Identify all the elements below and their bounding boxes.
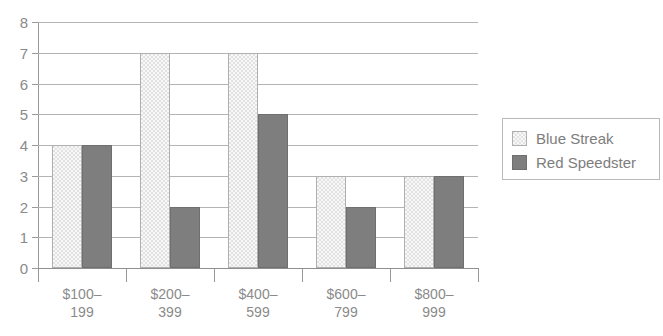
y-axis-label: 8 (20, 15, 28, 30)
gridline (38, 84, 478, 85)
y-axis-tick (32, 145, 38, 146)
x-axis-tick (214, 269, 215, 282)
x-axis-tick (390, 269, 391, 282)
bar (346, 207, 376, 269)
y-axis-label: 4 (20, 138, 28, 153)
y-axis-tick (32, 114, 38, 115)
bar (170, 207, 200, 269)
y-axis-label: 6 (20, 76, 28, 91)
x-axis-label: $400– 599 (214, 286, 302, 321)
y-axis-label: 3 (20, 168, 28, 183)
legend-swatch-icon-blue-streak (512, 131, 527, 146)
y-axis-tick (32, 53, 38, 54)
y-axis-label: 1 (20, 230, 28, 245)
bar (316, 176, 346, 268)
y-axis-label: 7 (20, 45, 28, 60)
bar (52, 145, 82, 268)
x-axis-tick (38, 269, 39, 282)
bar (404, 176, 434, 268)
legend-item-blue-streak: Blue Streak (512, 126, 659, 150)
plot-area: 012345678 (38, 22, 478, 268)
legend-label-blue-streak: Blue Streak (536, 131, 614, 146)
x-axis-label: $200– 399 (126, 286, 214, 321)
bar (140, 53, 170, 268)
bar (82, 145, 112, 268)
chart-legend: Blue Streak Red Speedster (502, 118, 660, 180)
bar (228, 53, 258, 268)
y-axis-tick (32, 22, 38, 23)
gridline (38, 53, 478, 54)
y-axis-label: 0 (20, 261, 28, 276)
x-axis-label: $800– 999 (390, 286, 478, 321)
bar-chart: 012345678 Blue Streak Red Speedster $100… (0, 0, 663, 336)
legend-item-red-speedster: Red Speedster (512, 150, 659, 174)
x-axis-tick (126, 269, 127, 282)
bar (434, 176, 464, 268)
bar (258, 114, 288, 268)
y-axis-tick (32, 176, 38, 177)
y-axis-tick (32, 207, 38, 208)
gridline (38, 22, 478, 23)
y-axis-tick (32, 237, 38, 238)
x-axis-tick (302, 269, 303, 282)
x-axis-label: $600– 799 (302, 286, 390, 321)
x-axis-tick (478, 269, 479, 282)
x-axis-line (38, 268, 479, 269)
legend-swatch-icon-red-speedster (512, 155, 527, 170)
legend-label-red-speedster: Red Speedster (536, 155, 636, 170)
y-axis-label: 5 (20, 107, 28, 122)
y-axis-label: 2 (20, 199, 28, 214)
x-axis-label: $100– 199 (38, 286, 126, 321)
y-axis-tick (32, 84, 38, 85)
